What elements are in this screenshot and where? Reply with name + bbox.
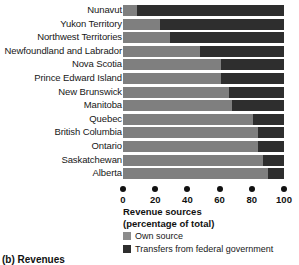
chart-row: Yukon Territory xyxy=(0,19,292,30)
stacked-bar xyxy=(123,19,284,30)
bar-segment-transfers xyxy=(160,19,284,30)
category-label: Nunavut xyxy=(0,4,122,15)
bar-segment-own-source xyxy=(123,32,170,43)
category-label: Newfoundland and Labrador xyxy=(0,45,122,56)
stacked-bar xyxy=(123,32,284,43)
category-label: Manitoba xyxy=(0,99,122,110)
chart-row: Nova Scotia xyxy=(0,59,292,70)
bar-segment-transfers xyxy=(268,168,284,179)
bar-segment-own-source xyxy=(123,100,232,111)
axis-tick-label: 0 xyxy=(108,194,138,205)
chart-plot-area: NunavutYukon TerritoryNorthwest Territor… xyxy=(0,0,292,188)
bar-segment-transfers xyxy=(232,100,284,111)
bar-segment-own-source xyxy=(123,155,263,166)
stacked-bar xyxy=(123,114,284,125)
bar-segment-transfers xyxy=(258,141,284,152)
bar-segment-transfers xyxy=(170,32,284,43)
legend-label-transfers: Transfers from federal government xyxy=(135,244,273,254)
chart-row: Manitoba xyxy=(0,100,292,111)
bar-segment-own-source xyxy=(123,168,268,179)
chart-row: Nunavut xyxy=(0,5,292,16)
stacked-bar xyxy=(123,5,284,16)
axis-tick-label: 100 xyxy=(269,194,299,205)
stacked-bar xyxy=(123,141,284,152)
axis-tick-marker xyxy=(281,186,287,192)
category-label: Saskatchewan xyxy=(0,154,122,165)
category-label: British Columbia xyxy=(0,126,122,137)
category-label: Yukon Territory xyxy=(0,18,122,29)
axis-tick-label: 40 xyxy=(172,194,202,205)
bar-segment-own-source xyxy=(123,5,137,16)
bar-segment-own-source xyxy=(123,87,229,98)
chart-row: Northwest Territories xyxy=(0,32,292,43)
category-label: Northwest Territories xyxy=(0,31,122,42)
stacked-bar xyxy=(123,59,284,70)
legend-swatch-transfers-icon xyxy=(123,245,131,253)
axis-title: Revenue sources (percentage of total) xyxy=(123,206,214,229)
axis-tick-marker xyxy=(249,186,255,192)
axis-title-line-1: Revenue sources xyxy=(123,206,214,218)
bar-segment-own-source xyxy=(123,59,221,70)
category-label: Nova Scotia xyxy=(0,58,122,69)
chart-row: Ontario xyxy=(0,141,292,152)
category-label: Prince Edward Island xyxy=(0,72,122,83)
stacked-bar xyxy=(123,46,284,57)
stacked-bar xyxy=(123,155,284,166)
bar-segment-own-source xyxy=(123,46,200,57)
axis-title-line-2: (percentage of total) xyxy=(123,218,214,230)
chart-row: Prince Edward Island xyxy=(0,73,292,84)
stacked-bar xyxy=(123,168,284,179)
axis-tick-label: 20 xyxy=(140,194,170,205)
legend-label-own-source: Own source xyxy=(135,231,183,241)
axis-tick-label: 60 xyxy=(205,194,235,205)
stacked-bar xyxy=(123,100,284,111)
axis-tick-marker xyxy=(184,186,190,192)
chart-row: Quebec xyxy=(0,114,292,125)
bar-segment-own-source xyxy=(123,127,258,138)
bar-segment-transfers xyxy=(258,127,284,138)
bar-segment-own-source xyxy=(123,114,253,125)
chart-row: New Brunswick xyxy=(0,87,292,98)
stacked-bar xyxy=(123,87,284,98)
bar-segment-transfers xyxy=(221,73,284,84)
stacked-bar xyxy=(123,73,284,84)
stacked-bar xyxy=(123,127,284,138)
chart-legend: Own source Transfers from federal govern… xyxy=(123,230,273,256)
bar-segment-transfers xyxy=(263,155,284,166)
legend-swatch-own-source-icon xyxy=(123,232,131,240)
bar-segment-own-source xyxy=(123,73,221,84)
bar-segment-transfers xyxy=(137,5,284,16)
bar-segment-transfers xyxy=(221,59,284,70)
chart-row: Alberta xyxy=(0,168,292,179)
figure-caption: (b) Revenues xyxy=(2,254,65,265)
category-label: New Brunswick xyxy=(0,86,122,97)
bar-segment-transfers xyxy=(253,114,284,125)
legend-item-transfers: Transfers from federal government xyxy=(123,243,273,254)
bar-segment-transfers xyxy=(200,46,284,57)
bar-segment-own-source xyxy=(123,19,160,30)
bar-segment-own-source xyxy=(123,141,258,152)
category-label: Quebec xyxy=(0,113,122,124)
axis-tick-marker xyxy=(152,186,158,192)
chart-row: British Columbia xyxy=(0,127,292,138)
axis-tick-label: 80 xyxy=(237,194,267,205)
chart-row: Saskatchewan xyxy=(0,155,292,166)
category-label: Alberta xyxy=(0,167,122,178)
category-label: Ontario xyxy=(0,140,122,151)
bar-segment-transfers xyxy=(229,87,284,98)
axis-tick-marker xyxy=(120,186,126,192)
chart-row: Newfoundland and Labrador xyxy=(0,46,292,57)
legend-item-own-source: Own source xyxy=(123,230,273,241)
axis-tick-marker xyxy=(217,186,223,192)
